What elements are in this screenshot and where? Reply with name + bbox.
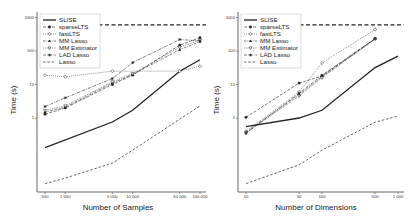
x-tick-label: 50 [297,194,302,199]
x-tick-label: 1 000 [393,194,404,199]
legend: SLISEsparseLTSfastLTSMM LassoMM Estimato… [241,14,301,68]
legend-item-sparselts: sparseLTS [260,23,289,30]
y-tick-label: 1000 [226,15,236,20]
y-axis-title: Time (s) [212,85,221,114]
legend-item-fastlts: fastLTS [260,30,281,37]
y-tick-label: 100 [228,48,236,53]
figure: 11010010005001 0005 00010 00050 000100 0… [0,0,416,224]
legend-item-mm-lasso: MM Lasso [260,37,289,44]
x-tick-label: 100 [319,194,327,199]
y-tick-label: 10 [230,82,235,87]
series-lasso [246,116,398,184]
x-tick-label: 10 [244,194,249,199]
legend-item-lad-lasso: LAD Lasso [260,51,291,58]
legend-item-mm-estimator: MM Estimator [260,44,298,51]
y-tick-label: 1 [233,115,236,120]
x-tick-label: 500 [372,194,380,199]
legend-item-slise: SLISE [260,16,278,23]
chart-dimensions: 110100100010501005001 000Number of Dimen… [0,0,416,224]
legend-item-lasso: Lasso [260,58,277,65]
x-axis-title: Number of Dimensions [275,203,356,212]
